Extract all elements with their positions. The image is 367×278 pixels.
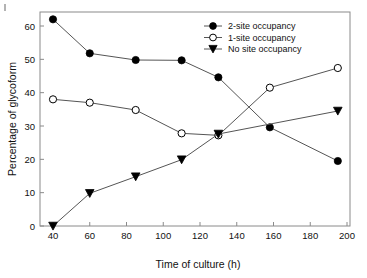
x-tick-label: 160 <box>266 230 282 241</box>
x-tick-label: 180 <box>302 230 318 241</box>
data-point-filled-circle <box>132 56 139 63</box>
legend-label-0: 2-site occupancy <box>228 21 296 31</box>
series-line <box>53 111 338 226</box>
data-point-triangle <box>131 173 140 181</box>
data-point-filled-circle <box>334 157 341 164</box>
x-tick-label: 40 <box>48 230 59 241</box>
x-tick-label: 140 <box>229 230 245 241</box>
x-tick-label: 60 <box>84 230 95 241</box>
x-axis-title: Time of culture (h) <box>156 258 241 270</box>
x-tick-label: 200 <box>339 230 355 241</box>
legend-label-1: 1-site occupancy <box>228 33 296 43</box>
y-tick-label: 30 <box>24 121 35 132</box>
scan-artifact-mark <box>4 4 6 11</box>
data-point-open-circle <box>49 96 56 103</box>
chart-legend: 2-site occupancy1-site occupancyNo site … <box>204 21 302 54</box>
data-point-open-circle <box>86 99 93 106</box>
line-chart: 406080100120140160180200 0102030405060 2… <box>0 0 367 278</box>
y-tick-label: 60 <box>24 21 35 32</box>
legend-label-2: No site occupancy <box>228 44 302 54</box>
series-filled-triangle-down <box>49 107 342 230</box>
data-point-open-circle <box>210 34 217 41</box>
chart-figure: 406080100120140160180200 0102030405060 2… <box>0 0 367 278</box>
plot-frame <box>40 12 350 226</box>
series-open-circle <box>49 64 341 139</box>
y-tick-label: 10 <box>24 187 35 198</box>
data-point-open-circle <box>334 64 341 71</box>
x-tick-label: 120 <box>192 230 208 241</box>
data-point-open-circle <box>132 106 139 113</box>
data-point-filled-circle <box>215 74 222 81</box>
data-point-filled-circle <box>178 57 185 64</box>
x-tick-label: 100 <box>155 230 171 241</box>
x-tick-label: 80 <box>121 230 132 241</box>
y-axis-title: Percentage of glycoform <box>6 62 18 176</box>
y-tick-label: 40 <box>24 87 35 98</box>
y-tick-label: 0 <box>30 221 35 232</box>
data-point-filled-circle <box>86 50 93 57</box>
y-axis-ticks: 0102030405060 <box>24 21 44 232</box>
data-point-triangle <box>177 156 186 164</box>
series-filled-circle <box>49 16 341 165</box>
data-point-filled-circle <box>210 23 217 30</box>
plot-frame-rect <box>40 12 350 226</box>
x-axis-ticks: 406080100120140160180200 <box>48 222 355 241</box>
y-tick-label: 20 <box>24 154 35 165</box>
series-line <box>53 68 338 135</box>
data-point-open-circle <box>266 84 273 91</box>
data-point-filled-circle <box>49 16 56 23</box>
data-point-open-circle <box>178 130 185 137</box>
y-tick-label: 50 <box>24 54 35 65</box>
